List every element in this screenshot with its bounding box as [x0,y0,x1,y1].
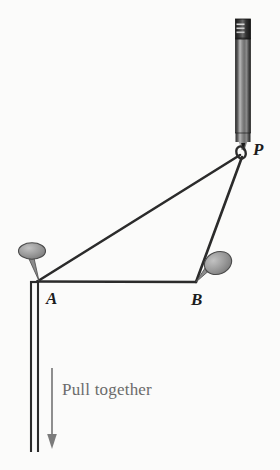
ellipse-construction-figure: A B P Pull together [0,0,280,470]
pencil-icon [236,19,251,152]
pushpin-icon [19,243,46,281]
pin-a-head [19,243,46,259]
point-label-a: A [46,290,57,307]
string-segment-ab [37,282,196,283]
pencil-ferrule-band [237,32,245,34]
pencil-barrel [236,38,251,142]
pin-a-shaft [29,258,39,281]
point-label-b: B [191,291,202,308]
pull-together-caption: Pull together [62,380,152,400]
point-label-p: P [253,141,263,158]
pencil-ferrule-band [237,28,245,30]
pencil-ferrule-band [237,24,245,26]
down-arrow-icon [47,368,57,449]
arrow-head [47,434,57,449]
